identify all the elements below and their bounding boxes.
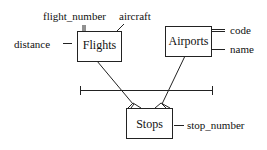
attr-name: name xyxy=(230,43,254,55)
aircraft-line xyxy=(117,24,124,31)
attr-stop-number: stop_number xyxy=(187,119,244,131)
attr-flight-number: flight_number xyxy=(43,10,106,22)
entity-airports: Airports xyxy=(165,34,212,48)
airports-stops-relationship xyxy=(162,56,185,104)
attr-aircraft: aircraft xyxy=(119,10,151,22)
entity-stops: Stops xyxy=(126,117,173,131)
entity-flights: Flights xyxy=(77,38,122,52)
attr-distance: distance xyxy=(14,38,50,50)
attr-code: code xyxy=(230,24,251,36)
flights-stops-relationship xyxy=(97,61,133,104)
